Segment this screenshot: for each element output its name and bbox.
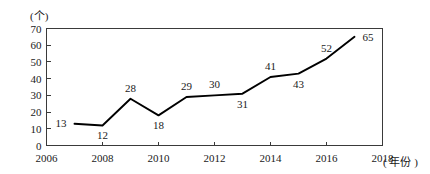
x-axis-tick-marks: [103, 142, 327, 146]
data-point-value-label: 29: [181, 80, 193, 92]
chart-canvas: 706050403020100 200620082010201220142016…: [0, 0, 430, 174]
line-chart: 706050403020100 200620082010201220142016…: [0, 0, 430, 174]
x-axis-tick-labels: 2006200820102012201420162018: [36, 152, 395, 164]
y-axis-tick-label: 0: [36, 140, 42, 152]
data-point-value-label: 12: [97, 129, 108, 141]
data-point-value-label: 28: [125, 82, 137, 94]
y-axis-tick-label: 20: [31, 106, 43, 118]
data-point-value-label: 52: [321, 42, 332, 54]
data-point-value-label: 41: [265, 60, 276, 72]
x-axis-tick-label: 2014: [260, 152, 283, 164]
x-axis-tick-label: 2006: [36, 152, 59, 164]
x-axis-tick-label: 2012: [204, 152, 226, 164]
y-axis-tick-label: 30: [31, 89, 43, 101]
y-axis-unit-label: (个): [30, 10, 49, 23]
data-point-value-label: 30: [209, 78, 221, 90]
y-axis-tick-marks: [47, 45, 51, 129]
data-point-value-label: 43: [293, 78, 305, 90]
y-axis-tick-labels: 706050403020100: [31, 23, 43, 152]
x-axis-tick-label: 2010: [148, 152, 171, 164]
y-axis-tick-label: 70: [31, 23, 43, 35]
y-axis-tick-label: 10: [31, 123, 43, 135]
y-axis-tick-label: 40: [31, 73, 43, 85]
x-axis-unit-label: ( 年份 ): [383, 155, 418, 169]
y-axis-tick-label: 60: [31, 39, 43, 51]
data-point-value-label: 13: [56, 117, 68, 129]
data-point-value-label: 18: [153, 119, 165, 131]
data-point-value-label: 65: [363, 31, 375, 43]
data-point-value-label: 31: [237, 98, 248, 110]
x-axis-tick-label: 2016: [316, 152, 339, 164]
y-axis-tick-label: 50: [31, 56, 43, 68]
x-axis-tick-label: 2008: [92, 152, 115, 164]
